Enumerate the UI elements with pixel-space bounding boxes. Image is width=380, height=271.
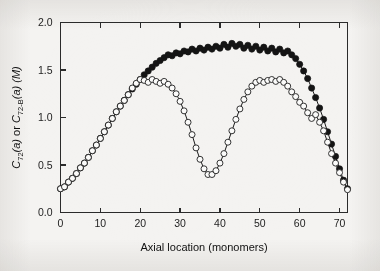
data-point: [213, 168, 219, 174]
data-point: [81, 160, 87, 166]
data-point: [173, 91, 179, 97]
y-tick-label-1.0: 1.0: [38, 111, 53, 123]
data-point: [197, 156, 203, 162]
data-point: [305, 110, 311, 116]
chart-plot: 010203040506070 0.00.51.01.52.0 Axial lo…: [0, 0, 380, 271]
x-axis-title: Axial location (monomers): [140, 241, 267, 253]
data-point: [341, 179, 347, 185]
data-point: [293, 94, 299, 100]
data-point: [325, 139, 331, 145]
x-tick-label-0: 0: [58, 217, 64, 229]
data-point: [297, 61, 303, 67]
data-point: [317, 105, 323, 111]
x-tick-label-10: 10: [95, 217, 107, 229]
data-point: [317, 119, 323, 125]
data-point: [177, 98, 183, 104]
x-tick-label-50: 50: [254, 217, 266, 229]
data-point: [301, 103, 307, 109]
y-tick-label-2.0: 2.0: [38, 16, 53, 28]
data-point: [189, 132, 195, 138]
data-point: [329, 151, 335, 157]
data-point: [117, 103, 123, 109]
data-point: [85, 154, 91, 160]
x-tick-label-60: 60: [294, 217, 306, 229]
x-tick-label-70: 70: [334, 217, 346, 229]
data-point: [93, 142, 99, 148]
data-point: [229, 128, 235, 134]
x-tick-label-30: 30: [174, 217, 186, 229]
x-tick-label-40: 40: [214, 217, 226, 229]
x-axis-title-text: Axial location (monomers): [140, 241, 267, 253]
series-open: [58, 77, 351, 193]
data-point: [101, 129, 107, 135]
data-point: [233, 116, 239, 122]
data-point: [337, 170, 343, 176]
y-tick-label-0.5: 0.5: [38, 159, 53, 171]
data-point: [113, 109, 119, 115]
data-point: [313, 94, 319, 100]
data-point: [333, 160, 339, 166]
data-point: [181, 108, 187, 114]
data-point: [305, 75, 311, 81]
data-point: [109, 115, 115, 121]
y-tick-labels: 0.00.51.01.52.0: [38, 16, 53, 218]
data-point: [309, 85, 315, 91]
data-series-group: [57, 40, 350, 192]
data-point: [313, 112, 319, 118]
data-point: [193, 145, 199, 151]
x-tick-labels: 010203040506070: [58, 217, 346, 229]
data-point: [185, 119, 191, 125]
data-point: [217, 160, 223, 166]
data-point: [105, 122, 111, 128]
y-tick-label-0.0: 0.0: [38, 206, 53, 218]
y-tick-label-1.5: 1.5: [38, 64, 53, 76]
data-point: [201, 166, 207, 172]
y-axis-title: C72(a) or C72-B(a) (M): [10, 66, 25, 169]
data-point: [169, 85, 175, 91]
data-point: [345, 187, 351, 193]
data-point: [321, 128, 327, 134]
data-point: [73, 171, 79, 177]
data-point: [89, 148, 95, 154]
data-point: [293, 56, 299, 62]
y-axis-title-text: C72(a) or C72-B(a) (M): [10, 66, 25, 169]
data-point: [245, 89, 251, 95]
data-point: [97, 135, 103, 141]
data-point: [121, 97, 127, 103]
data-point: [237, 106, 243, 112]
data-point: [221, 151, 227, 157]
figure-canvas: 010203040506070 0.00.51.01.52.0 Axial lo…: [0, 0, 380, 271]
x-tick-label-20: 20: [134, 217, 146, 229]
data-point: [301, 68, 307, 74]
data-point: [241, 96, 247, 102]
data-point: [125, 92, 131, 98]
data-point: [225, 139, 231, 145]
data-point: [285, 83, 291, 89]
